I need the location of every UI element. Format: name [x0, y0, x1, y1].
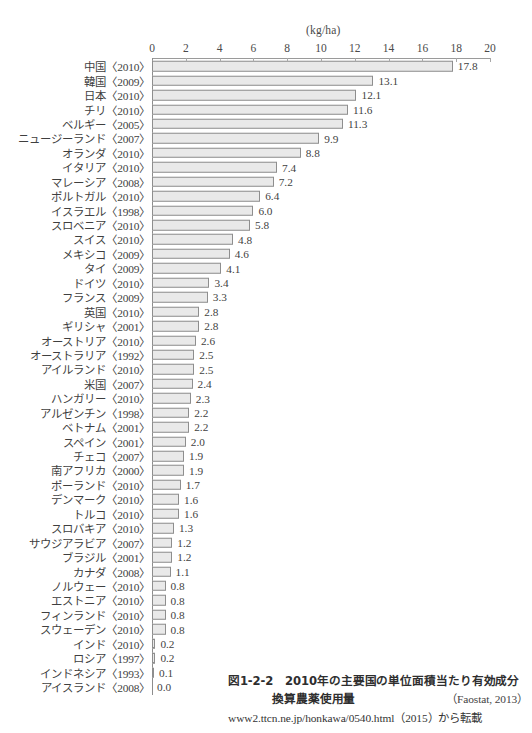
bar-row: ベルギー〈2005〉11.3 — [0, 117, 532, 131]
x-tick-mark-10 — [321, 58, 322, 62]
country-year: 〈2010〉 — [106, 639, 150, 651]
bar-row: 韓国〈2009〉13.1 — [0, 73, 532, 87]
country-name: 米国 — [84, 379, 106, 391]
x-axis-tick-labels: 02468101214161820 — [152, 42, 490, 56]
country-name: アイスランド — [41, 682, 107, 694]
bar — [152, 638, 155, 649]
bar-row: ロシア〈1997〉0.2 — [0, 651, 532, 665]
bar-value-label: 2.5 — [199, 363, 213, 375]
x-tick-label-6: 6 — [251, 42, 257, 54]
country-name: イスラエル — [51, 206, 107, 218]
x-tick-label-8: 8 — [284, 42, 290, 54]
country-name: マレーシア — [51, 177, 107, 189]
bar-value-label: 4.1 — [226, 262, 240, 274]
bar — [152, 61, 453, 72]
bar-row: トルコ〈2010〉1.6 — [0, 507, 532, 521]
bar — [152, 176, 274, 187]
country-year: 〈2010〉 — [106, 364, 150, 376]
bar-track: 2.3 — [152, 393, 490, 404]
bar-row: ポーランド〈2010〉1.7 — [0, 478, 532, 492]
bar-value-label: 4.6 — [235, 248, 249, 260]
country-year: 〈2010〉 — [106, 494, 150, 506]
bar — [152, 422, 189, 433]
bar-track: 9.9 — [152, 133, 490, 144]
bar-track: 2.6 — [152, 335, 490, 346]
bar-value-label: 2.5 — [199, 349, 213, 361]
country-year: 〈2010〉 — [106, 220, 150, 232]
bar-value-label: 17.8 — [458, 60, 478, 72]
bar — [152, 624, 166, 635]
bar-track: 2.8 — [152, 321, 490, 332]
country-name: スロベニア — [51, 220, 107, 232]
country-name: スウェーデン — [40, 624, 107, 636]
figure-caption: 図1-2-2 2010年の主要国の単位面積当たり有効成分 換算農薬使用量 （Fa… — [228, 672, 528, 725]
country-name: ポルトガル — [51, 191, 107, 203]
x-tick-label-4: 4 — [217, 42, 223, 54]
country-name: ブラジル — [62, 552, 106, 564]
bar — [152, 148, 301, 159]
country-name: オランダ — [62, 148, 106, 160]
country-year: 〈1997〉 — [106, 653, 150, 665]
bar-row: 米国〈2007〉2.4 — [0, 377, 532, 391]
country-year: 〈2007〉 — [106, 379, 150, 391]
country-name: デンマーク — [51, 494, 107, 506]
country-year: 〈2010〉 — [106, 307, 150, 319]
bar-value-label: 0.1 — [159, 667, 173, 679]
bar-track: 5.8 — [152, 220, 490, 231]
country-year: 〈2008〉 — [106, 682, 150, 694]
bar-value-label: 1.9 — [189, 464, 203, 476]
country-year: 〈1992〉 — [106, 350, 150, 362]
bar-value-label: 13.1 — [378, 75, 398, 87]
bar — [152, 350, 194, 361]
bar-row: ギリシャ〈2001〉2.8 — [0, 319, 532, 333]
country-year: 〈2010〉 — [106, 595, 150, 607]
bar-value-label: 0.0 — [157, 681, 171, 693]
country-name: 韓国 — [84, 76, 106, 88]
caption-title-part-1: 2010年の主要国の単位面積当たり有効成分 — [285, 674, 519, 688]
bar-category-label: アイスランド〈2008〉 — [41, 679, 150, 695]
bar — [152, 610, 166, 621]
country-name: エストニア — [51, 595, 107, 607]
bar-track: 1.2 — [152, 537, 490, 548]
country-year: 〈2008〉 — [106, 177, 150, 189]
bar-row: オランダ〈2010〉8.8 — [0, 146, 532, 160]
country-year: 〈2010〉 — [106, 610, 150, 622]
bar-value-label: 3.4 — [214, 277, 228, 289]
country-year: 〈2005〉 — [106, 119, 150, 131]
bar-row: 南アフリカ〈2000〉1.9 — [0, 463, 532, 477]
bar — [152, 234, 233, 245]
country-name: トルコ — [73, 509, 106, 521]
country-year: 〈2001〉 — [106, 321, 150, 333]
bar-track: 1.2 — [152, 552, 490, 563]
country-name: オーストリア — [41, 336, 107, 348]
bar-track: 0.2 — [152, 638, 490, 649]
bar-row: スロバキア〈2010〉1.3 — [0, 521, 532, 535]
caption-figure-number: 図1-2-2 — [228, 674, 273, 688]
country-name: ポーランド — [51, 480, 107, 492]
bar-track: 7.4 — [152, 162, 490, 173]
bar-track: 2.5 — [152, 350, 490, 361]
country-year: 〈2007〉 — [106, 538, 150, 550]
country-name: アルゼンチン — [40, 408, 107, 420]
bar — [152, 133, 319, 144]
caption-attribution: www2.ttcn.ne.jp/honkawa/0540.html（2015）か… — [228, 709, 528, 725]
bar-track: 6.0 — [152, 205, 490, 216]
bar-value-label: 7.4 — [282, 161, 296, 173]
country-name: オーストラリア — [30, 350, 107, 362]
bar — [152, 581, 166, 592]
country-name: タイ — [84, 263, 106, 275]
bar-value-label: 6.0 — [258, 205, 272, 217]
bar-track: 2.8 — [152, 306, 490, 317]
country-year: 〈2000〉 — [106, 465, 150, 477]
country-year: 〈1993〉 — [106, 668, 150, 680]
bar-value-label: 1.6 — [184, 508, 198, 520]
country-name: インド — [73, 639, 106, 651]
bar-row: ドイツ〈2010〉3.4 — [0, 276, 532, 290]
country-name: ベルギー — [62, 119, 106, 131]
bar-value-label: 1.2 — [177, 551, 191, 563]
bar-value-label: 0.2 — [160, 638, 174, 650]
bar-value-label: 1.9 — [189, 450, 203, 462]
bar-track: 11.3 — [152, 119, 490, 130]
bar-row: スロベニア〈2010〉5.8 — [0, 218, 532, 232]
x-tick-label-10: 10 — [315, 42, 327, 54]
